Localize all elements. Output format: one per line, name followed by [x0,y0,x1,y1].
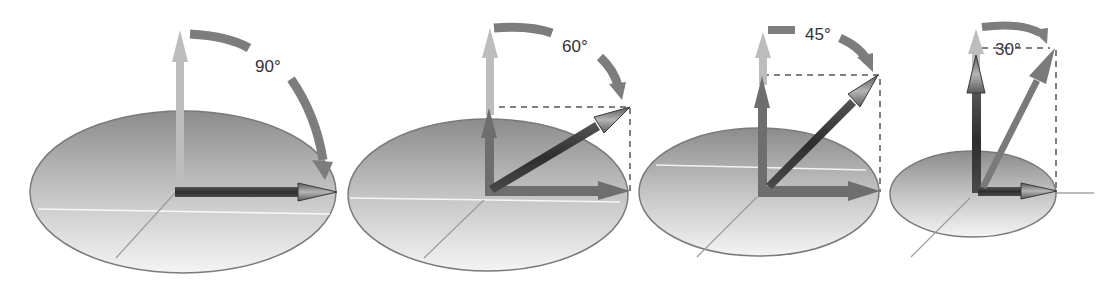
light-vertical-arrow [755,32,771,85]
angle-label-30: 30° [995,40,1021,59]
angle-label-90: 90° [255,57,281,76]
panel-60: 60° [348,27,630,271]
panel-30: 30° [890,25,1094,257]
rotation-diagram: 90° 60° [0,0,1117,286]
rotation-arc-icon [494,27,626,100]
light-vertical-arrow [482,28,498,115]
angle-label-60: 60° [562,37,588,56]
panel-90: 90° [30,30,337,273]
angle-label-45: 45° [805,25,831,44]
panel-45: 45° [639,25,880,257]
